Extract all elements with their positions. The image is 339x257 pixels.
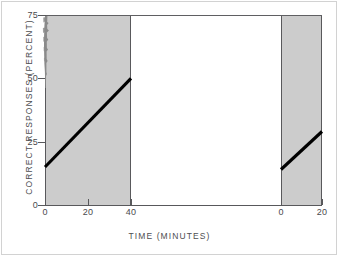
plot-panel-right [281,15,322,205]
x-axis-line [45,205,322,206]
y-tick-mark-25 [38,142,45,143]
x-tick-mark-right-20 [322,199,323,205]
plot-top-rule [45,15,322,16]
x-tick-label-left-40: 40 [119,207,143,217]
y-tick-mark-0 [38,205,45,206]
x-tick-label-right-20: 20 [310,207,334,217]
y-tick-mark-50 [38,78,45,79]
chart-figure: 0 25 50 75 0 20 40 0 20 TIME (MINUTES) C… [0,0,339,257]
x-tick-mark-right-0 [281,199,282,205]
y-tick-mark-75 [38,15,45,16]
plot-panel-left [45,15,131,205]
y-axis-line [45,15,46,205]
x-tick-mark-left-0 [45,199,46,205]
x-tick-label-left-20: 20 [76,207,100,217]
y-axis-title: CORRECT RESPONSES (PERCENT) [24,0,34,222]
x-axis-title: TIME (MINUTES) [0,231,339,241]
x-tick-mark-left-40 [131,199,132,205]
x-tick-mark-left-20 [88,199,89,205]
x-tick-label-left-0: 0 [33,207,57,217]
x-tick-label-right-0: 0 [269,207,293,217]
